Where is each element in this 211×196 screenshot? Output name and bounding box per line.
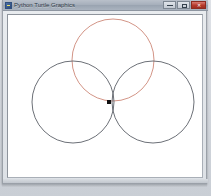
turtle-canvas-well <box>7 14 203 178</box>
python-icon <box>5 2 12 9</box>
close-button[interactable]: ✕ <box>191 1 206 9</box>
turtle-cursor <box>107 100 111 104</box>
desktop-background: Python Turtle Graphics ✕ <box>0 0 211 196</box>
window-title: Python Turtle Graphics <box>14 2 163 9</box>
window-titlebar[interactable]: Python Turtle Graphics ✕ <box>3 0 208 11</box>
minimize-button[interactable] <box>163 1 176 9</box>
canvas-background <box>8 15 202 177</box>
turtle-marker <box>107 100 111 104</box>
close-icon: ✕ <box>197 3 201 8</box>
minimize-icon <box>167 5 173 6</box>
window-controls: ✕ <box>163 1 206 9</box>
window-drop-shadow <box>2 184 207 187</box>
maximize-icon <box>182 4 187 8</box>
turtle-graphics-window: Python Turtle Graphics ✕ <box>2 0 207 184</box>
window-bottom-frame <box>3 179 208 183</box>
maximize-button[interactable] <box>177 1 190 9</box>
turtle-drawing-canvas[interactable] <box>8 15 202 177</box>
